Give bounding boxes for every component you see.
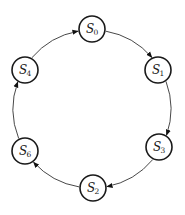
edges [13,31,171,187]
edge-s4-to-s0 [32,31,78,58]
state-node-s1: S1 [145,57,171,83]
state-subscript: 2 [95,187,100,196]
edge-s6-to-s4 [13,82,19,139]
state-diagram-svg: S0S1S3S2S6S4 [0,0,185,215]
state-node-s0: S0 [79,16,105,42]
state-node-s3: S3 [146,134,172,160]
edge-s0-to-s1 [106,31,152,57]
edge-s3-to-s2 [107,160,153,187]
edge-s2-to-s6 [34,162,80,187]
state-node-s6: S6 [12,138,38,164]
state-diagram: S0S1S3S2S6S4 [0,0,185,215]
edge-s1-to-s3 [166,81,171,135]
state-node-s4: S4 [12,57,38,83]
state-subscript: 0 [94,28,99,37]
state-node-s2: S2 [80,175,106,201]
state-subscript: 1 [160,69,165,78]
nodes: S0S1S3S2S6S4 [12,16,172,201]
state-subscript: 6 [27,150,32,159]
state-subscript: 3 [161,146,166,155]
state-subscript: 4 [27,69,32,78]
